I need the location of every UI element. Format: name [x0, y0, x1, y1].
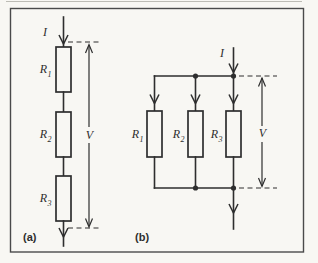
current-label-a: I — [38, 25, 52, 39]
resistor-subscript: 1 — [48, 70, 52, 79]
resistor-subscript: 3 — [48, 199, 52, 208]
resistor-symbol: R — [211, 127, 218, 141]
resistor-b1-body — [147, 111, 162, 157]
resistor-label-a2: R2 — [29, 127, 51, 143]
resistor-symbol: R — [173, 127, 180, 141]
resistor-b3-body — [226, 111, 241, 157]
resistor-subscript: 2 — [181, 135, 185, 144]
resistor-label-b3: R3 — [200, 127, 222, 143]
resistor-a2-body — [56, 112, 71, 157]
junction-dot-top-right — [231, 73, 236, 78]
junction-dot-top-mid — [193, 73, 198, 78]
resistor-symbol: R — [40, 62, 47, 76]
resistor-subscript: 2 — [48, 135, 52, 144]
figure: I R1 R2 R3 V (a) I R1 R2 R3 V (b) — [0, 0, 318, 263]
resistor-label-a3: R3 — [29, 191, 51, 207]
resistor-subscript: 1 — [140, 135, 144, 144]
resistor-subscript: 3 — [219, 135, 223, 144]
junction-dot-bottom-right — [231, 185, 236, 190]
junction-dot-bottom-mid — [193, 185, 198, 190]
resistor-label-b1: R1 — [121, 127, 143, 143]
panel-caption-a: (a) — [23, 231, 36, 244]
resistor-label-a1: R1 — [29, 62, 51, 78]
voltage-label-a: V — [82, 128, 97, 142]
current-label-b: I — [215, 46, 229, 60]
resistor-symbol: R — [132, 127, 139, 141]
panel-caption-b: (b) — [135, 231, 149, 244]
resistor-label-b2: R2 — [162, 127, 184, 143]
voltage-label-b: V — [255, 126, 270, 140]
resistor-symbol: R — [40, 127, 47, 141]
resistor-a3-body — [56, 176, 71, 221]
resistor-symbol: R — [40, 191, 47, 205]
resistor-a1-body — [56, 47, 71, 92]
